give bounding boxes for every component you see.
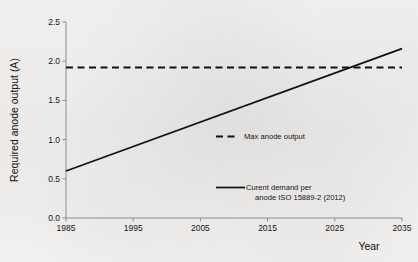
legend: Max anode output Curent demand per anode… xyxy=(216,132,346,201)
y-tick-label-2-0: 2.0 xyxy=(48,56,60,66)
y-tick-label-0-5: 0.5 xyxy=(48,174,60,184)
chart-figure: Required anode output (A) 2.5 2.0 1.5 1.… xyxy=(0,0,418,262)
y-tick-label-2-5: 2.5 xyxy=(48,17,60,27)
y-tick-label-1-5: 1.5 xyxy=(48,95,60,105)
y-tick-label-1-0: 1.0 xyxy=(48,135,60,145)
y-axis-title: Required anode output (A) xyxy=(8,58,20,182)
legend-label-max-anode-output: Max anode output xyxy=(244,132,306,141)
x-tick-label-1995: 1995 xyxy=(124,223,143,233)
chart-svg: Required anode output (A) 2.5 2.0 1.5 1.… xyxy=(0,0,418,262)
legend-label-current-demand-line1: Curent demand per xyxy=(246,183,312,192)
x-tick-label-1985: 1985 xyxy=(57,223,76,233)
x-axis-title: Year xyxy=(358,240,380,252)
x-tick-label-2005: 2005 xyxy=(191,223,210,233)
y-tick-label-0-0: 0.0 xyxy=(48,213,60,223)
x-tick-label-2035: 2035 xyxy=(393,223,412,233)
legend-label-current-demand-line2: anode ISO 15889-2 (2012) xyxy=(255,193,346,202)
x-tick-label-2015: 2015 xyxy=(258,223,277,233)
x-tick-label-2025: 2025 xyxy=(325,223,344,233)
